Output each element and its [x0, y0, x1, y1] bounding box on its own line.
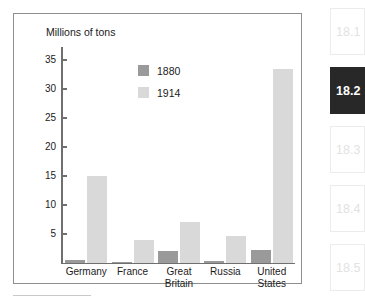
y-axis-tick [61, 59, 67, 61]
section-nav-item-18.5[interactable]: 18.5 [330, 244, 365, 291]
legend-swatch-1914 [138, 87, 149, 98]
y-axis-tick [61, 204, 67, 206]
y-axis-tick [61, 117, 67, 119]
x-axis-label-russia: Russia [202, 266, 248, 278]
y-axis-tick-label: 25 [32, 113, 56, 123]
y-axis-tick [61, 175, 67, 177]
y-axis-tick-label: 20 [32, 142, 56, 152]
x-axis-label-germany: Germany [63, 266, 109, 278]
section-nav-item-18.1[interactable]: 18.1 [330, 8, 365, 55]
y-axis-tick [61, 88, 67, 90]
x-axis-label-great-britain: GreatBritain [156, 266, 202, 289]
section-nav-item-18.2[interactable]: 18.2 [330, 67, 365, 114]
y-axis-tick-label: 10 [32, 200, 56, 210]
bar-1880-germany [65, 260, 85, 263]
section-nav: 18.118.218.318.418.5 [330, 0, 365, 305]
legend-label-1914: 1914 [157, 87, 180, 99]
bar-1880-russia [204, 261, 224, 263]
y-axis-tick [61, 146, 67, 148]
bar-1914-great-britain [180, 222, 200, 263]
x-axis-label-united-states: UnitedStates [249, 266, 295, 289]
bar-1880-france [112, 262, 132, 263]
y-axis-tick [61, 233, 67, 235]
bar-chart-figure: Millions of tons 3530252015105 GermanyFr… [13, 13, 302, 284]
plot-area: Millions of tons 3530252015105 GermanyFr… [14, 14, 301, 283]
figure-caption-rule [13, 295, 91, 296]
bar-1914-germany [87, 176, 107, 263]
bar-1880-great-britain [158, 251, 178, 263]
bar-1914-russia [226, 236, 246, 263]
x-axis-label-france: France [109, 266, 155, 278]
y-axis-line [61, 47, 63, 263]
bar-1914-united-states [273, 69, 293, 263]
y-axis-tick-label: 30 [32, 84, 56, 94]
bar-1880-united-states [251, 250, 271, 263]
legend-swatch-1880 [138, 65, 149, 76]
y-axis-tick-label: 15 [32, 171, 56, 181]
bar-1914-france [134, 240, 154, 263]
chart-legend: 18801914 [138, 62, 180, 106]
section-nav-item-18.4[interactable]: 18.4 [330, 185, 365, 232]
section-nav-item-18.3[interactable]: 18.3 [330, 126, 365, 173]
legend-item-1880: 1880 [138, 62, 180, 79]
y-axis-tick-label: 5 [32, 229, 56, 239]
y-axis-tick-label: 35 [32, 55, 56, 65]
legend-label-1880: 1880 [157, 65, 180, 77]
y-axis-title: Millions of tons [46, 26, 115, 38]
legend-item-1914: 1914 [138, 84, 180, 101]
